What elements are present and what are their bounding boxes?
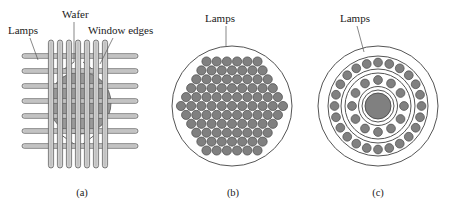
lamp-circle-64 <box>217 119 226 128</box>
lamp-circle-19 <box>253 75 262 84</box>
outer-lamp-ring-lamp-19 <box>332 90 341 99</box>
lamp-circle-49 <box>268 101 277 110</box>
lamp-circle-16 <box>222 75 231 84</box>
lamp-circle-84 <box>258 137 267 146</box>
outer-lamp-ring-lamp-0 <box>374 58 383 67</box>
lamp-circle-43 <box>207 101 216 110</box>
lamp-circle-29 <box>268 84 277 93</box>
lamp-circle-81 <box>227 137 236 146</box>
lamp-circle-54 <box>212 110 221 119</box>
lamp-circle-38 <box>263 93 272 102</box>
lamp-circle-85 <box>202 146 211 155</box>
mid-lamp-ring-lamp-3 <box>400 102 409 111</box>
lamp-circle-74 <box>233 128 242 137</box>
lamp-circle-34 <box>222 93 231 102</box>
outer-lamp-ring-lamp-9 <box>404 132 413 141</box>
lamp-circle-40 <box>176 101 185 110</box>
outer-lamp-ring-lamp-10 <box>395 139 404 148</box>
panel-a <box>22 40 138 168</box>
mid-lamp-ring-lamp-11 <box>361 79 370 88</box>
lamp-circle-78 <box>197 137 206 146</box>
lamp-circle-83 <box>248 137 257 146</box>
outer-lamp-ring-lamp-3 <box>404 71 413 80</box>
caption-panel-c: (c) <box>372 187 384 199</box>
outer-lamp-ring-lamp-15 <box>343 132 352 141</box>
lamp-circle-33 <box>212 93 221 102</box>
lamp-circle-30 <box>182 93 191 102</box>
mid-lamp-ring-lamp-0 <box>374 76 383 85</box>
label-a-lamps: Lamps <box>8 24 38 36</box>
lamp-circle-31 <box>192 93 201 102</box>
lamp-circle-76 <box>253 128 262 137</box>
lamp-circle-79 <box>207 137 216 146</box>
mid-lamp-ring-lamp-4 <box>396 115 405 124</box>
lamp-circle-23 <box>207 84 216 93</box>
lamp-circle-21 <box>187 84 196 93</box>
lamp-circle-18 <box>243 75 252 84</box>
outer-lamp-ring-lamp-7 <box>416 113 425 122</box>
lamp-circle-67 <box>248 119 257 128</box>
lamp-circle-73 <box>222 128 231 137</box>
panel-c <box>318 46 438 166</box>
figure-lamp-configurations: LampsWaferWindow edges(a)Lamps(b)Lamps(c… <box>0 0 457 215</box>
lamp-circle-86 <box>212 146 221 155</box>
lamp-circle-52 <box>192 110 201 119</box>
lamp-circle-10 <box>238 66 247 75</box>
label-b-lamps: Lamps <box>205 12 235 24</box>
lamp-circle-48 <box>258 101 267 110</box>
lamp-circle-32 <box>202 93 211 102</box>
outer-lamp-ring-lamp-12 <box>374 145 383 154</box>
lamp-circle-36 <box>243 93 252 102</box>
lamp-circle-66 <box>238 119 247 128</box>
lamp-circle-50 <box>278 101 287 110</box>
lamp-circle-45 <box>227 101 236 110</box>
lamp-circle-6 <box>197 66 206 75</box>
outer-lamp-ring-lamp-2 <box>395 64 404 73</box>
lamp-circle-56 <box>233 110 242 119</box>
lamp-circle-15 <box>212 75 221 84</box>
caption-panel-b: (b) <box>227 187 240 199</box>
center-disc <box>365 93 391 119</box>
lamp-circle-8 <box>217 66 226 75</box>
lamp-circle-80 <box>217 137 226 146</box>
label-a-wafer: Wafer <box>62 8 89 20</box>
outer-lamp-ring-lamp-6 <box>417 102 426 111</box>
lamp-circle-12 <box>258 66 267 75</box>
lamp-circle-41 <box>187 101 196 110</box>
lamp-circle-72 <box>212 128 221 137</box>
outer-lamp-ring-lamp-21 <box>343 71 352 80</box>
lamp-circle-69 <box>268 119 277 128</box>
lamp-circle-5 <box>253 57 262 66</box>
outer-lamp-ring-lamp-23 <box>362 60 371 69</box>
lamp-circle-3 <box>233 57 242 66</box>
mid-lamp-ring-lamp-6 <box>374 128 383 137</box>
panel-b <box>172 46 292 166</box>
mid-lamp-ring-lamp-2 <box>396 89 405 98</box>
mid-lamp-ring-lamp-5 <box>387 124 396 133</box>
lamp-circle-89 <box>243 146 252 155</box>
lamp-circle-46 <box>238 101 247 110</box>
mid-lamp-ring-lamp-9 <box>348 102 357 111</box>
lamp-circle-61 <box>187 119 196 128</box>
label-a-window-edges: Window edges <box>88 24 153 36</box>
lamp-circle-77 <box>263 128 272 137</box>
lamp-circle-63 <box>207 119 216 128</box>
lamp-circle-65 <box>227 119 236 128</box>
lamp-circle-26 <box>238 84 247 93</box>
outer-lamp-ring-lamp-8 <box>411 123 420 132</box>
lamp-circle-57 <box>243 110 252 119</box>
lamp-circle-71 <box>202 128 211 137</box>
outer-lamp-ring-lamp-13 <box>362 144 371 153</box>
lamp-circle-2 <box>222 57 231 66</box>
lamp-circle-11 <box>248 66 257 75</box>
figure-canvas: LampsWaferWindow edges(a)Lamps(b)Lamps(c… <box>0 0 457 215</box>
outer-lamp-ring-lamp-16 <box>336 123 345 132</box>
label-c-lamps: Lamps <box>340 12 370 24</box>
lamp-circle-75 <box>243 128 252 137</box>
outer-lamp-ring-lamp-20 <box>336 80 345 89</box>
lamp-circle-7 <box>207 66 216 75</box>
lamp-circle-17 <box>233 75 242 84</box>
lamp-circle-60 <box>273 110 282 119</box>
outer-lamp-ring-lamp-1 <box>385 60 394 69</box>
lamp-circle-39 <box>273 93 282 102</box>
